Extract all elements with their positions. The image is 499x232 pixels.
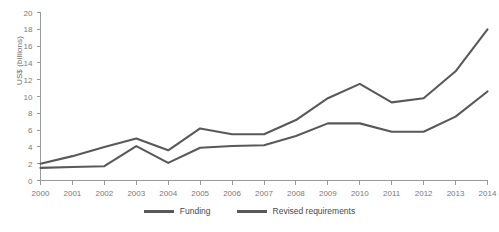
x-tick-label: 2000 [32, 189, 50, 198]
legend-swatch-funding [144, 210, 174, 213]
x-tick-label: 2006 [223, 189, 241, 198]
x-tick-label: 2010 [351, 189, 369, 198]
x-tick-label: 2008 [287, 189, 305, 198]
legend-item-funding: Funding [144, 206, 211, 216]
chart-container: US$ (billions) 02468101214161820 2000200… [0, 0, 499, 232]
x-tick-label: 2004 [159, 189, 177, 198]
y-tick-label: 6 [28, 126, 33, 135]
y-tick-label: 20 [24, 9, 33, 18]
y-axis-ticks: 02468101214161820 [24, 9, 41, 186]
x-tick-label: 2001 [64, 189, 82, 198]
legend-swatch-revised-requirements [237, 210, 267, 213]
x-tick-label: 2002 [95, 189, 113, 198]
series-line-revised-requirements [41, 29, 488, 163]
x-tick-label: 2003 [127, 189, 145, 198]
x-tick-label: 2013 [447, 189, 465, 198]
x-tick-label: 2012 [415, 189, 433, 198]
y-tick-label: 0 [28, 177, 33, 186]
y-tick-label: 8 [28, 109, 33, 118]
chart-plot-area: 02468101214161820 2000200120022003200420… [0, 0, 499, 206]
legend-label-funding: Funding [180, 206, 211, 216]
y-tick-label: 14 [24, 59, 33, 68]
y-tick-label: 2 [28, 160, 33, 169]
chart-legend: Funding Revised requirements [0, 206, 499, 216]
y-tick-label: 4 [28, 143, 33, 152]
y-tick-label: 16 [24, 42, 33, 51]
x-tick-label: 2014 [479, 189, 497, 198]
x-tick-label: 2005 [191, 189, 209, 198]
x-tick-label: 2009 [319, 189, 337, 198]
y-tick-label: 12 [24, 76, 33, 85]
x-tick-label: 2007 [255, 189, 273, 198]
legend-label-revised-requirements: Revised requirements [273, 206, 356, 216]
y-tick-label: 10 [24, 93, 33, 102]
x-axis-ticks: 2000200120022003200420052006200720082009… [32, 181, 497, 198]
data-series-group [41, 29, 488, 168]
legend-item-revised-requirements: Revised requirements [237, 206, 356, 216]
series-line-funding [41, 91, 488, 167]
x-tick-label: 2011 [383, 189, 401, 198]
y-tick-label: 18 [24, 25, 33, 34]
